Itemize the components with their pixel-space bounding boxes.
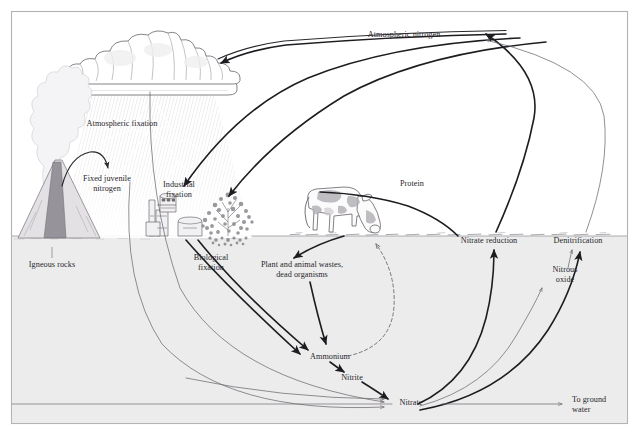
nitrogen-cycle-canvas: Atmospheric nitrogen Atmospheric fixatio… [0,0,639,440]
label-denitrification: Denitrification [554,236,603,245]
label-biological-fixation-line1: Biological [194,253,229,262]
label-ammonium: Ammonium [310,352,351,361]
label-industrial-fixation-line2: fixation [166,190,192,199]
label-biological-fixation-line2: fixation [198,263,224,272]
label-nitrous-oxide-line2: oxide [556,275,575,284]
label-nitrate-reduction: Nitrate reduction [461,236,518,245]
label-protein: Protein [400,179,424,188]
label-igneous-rocks: Igneous rocks [29,260,75,269]
arrow-atmn-to-industrial [184,38,520,186]
arrow-atmn-to-biological [229,42,546,196]
arrow-denitrification-to-atmn [486,40,605,232]
label-plant-animal-wastes-line1: Plant and animal wastes, [261,260,343,269]
label-plant-animal-wastes-line2: dead organisms [276,270,328,279]
label-to-ground-water-line2: water [572,405,591,414]
label-atmospheric-nitrogen: Atmospheric nitrogen [368,30,441,39]
arrow-atmn-to-cloud [221,34,506,63]
label-atmospheric-fixation: Atmospheric fixation [87,119,158,128]
arrow-nitratereduction-to-atmn [486,34,535,232]
label-nitrous-oxide-line1: Nitrous [553,265,578,274]
label-nitrate: Nitrate [399,398,422,407]
ground-texture [290,232,610,235]
label-fixed-juvenile-nitrogen-line1: Fixed juvenile [83,174,131,183]
nitrogen-cycle-figure: Atmospheric nitrogen Atmospheric fixatio… [0,0,639,440]
label-nitrite: Nitrite [341,373,363,382]
label-to-ground-water-line1: To ground [572,395,606,404]
label-industrial-fixation-line1: Industrial [163,180,196,189]
label-fixed-juvenile-nitrogen-line2: nitrogen [93,184,121,193]
